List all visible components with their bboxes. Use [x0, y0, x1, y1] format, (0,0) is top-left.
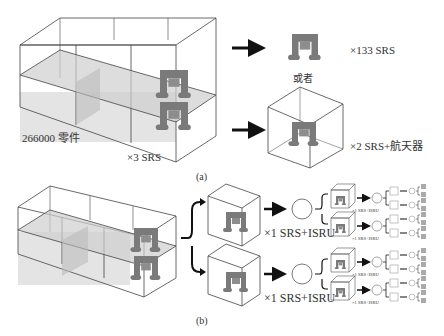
circle-node — [292, 199, 312, 219]
diagram-root: 266000 零件 ×3 SRS ×133 SRS 或者 ×2 SRS+航天器 … — [0, 0, 444, 336]
parts-count-label: 266000 零件 — [22, 129, 80, 145]
small-label: ×1 SRS+ISRU — [352, 300, 379, 305]
caption-a: (a) — [196, 171, 207, 182]
branch-cube-1 — [208, 184, 260, 246]
small-label: ×1 SRS+ISRU — [352, 272, 379, 277]
x3-srs-label: ×3 SRS — [127, 151, 161, 163]
robot-icon — [288, 34, 321, 60]
small-label: ×1 SRS+ISRU — [352, 208, 379, 213]
caption-b: (b) — [196, 315, 208, 326]
x133-srs-label: ×133 SRS — [350, 44, 395, 56]
branch-label-1: ×1 SRS+ISRU — [264, 226, 335, 241]
or-label: 或者 — [293, 70, 313, 85]
panel-b-big-box — [18, 186, 176, 297]
circle-node — [292, 264, 312, 284]
branch-brace — [181, 202, 203, 272]
x2-srs-spacecraft-label: ×2 SRS+航天器 — [350, 137, 423, 153]
panel-a-small-cube — [268, 87, 343, 168]
branch-cube-2 — [208, 244, 260, 306]
small-label: ×1 SRS+ISRU — [352, 236, 379, 241]
branch-label-2: ×1 SRS+ISRU — [264, 291, 335, 306]
